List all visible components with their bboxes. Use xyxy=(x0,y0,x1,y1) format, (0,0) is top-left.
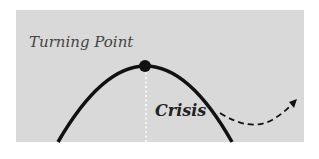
dashed-arrow xyxy=(220,104,292,125)
arrow-head-icon xyxy=(289,99,297,108)
turning-point-label: Turning Point xyxy=(29,33,133,51)
diagram-graphic xyxy=(0,0,319,159)
peak-marker-icon xyxy=(139,60,151,72)
crisis-label: Crisis xyxy=(155,101,206,120)
